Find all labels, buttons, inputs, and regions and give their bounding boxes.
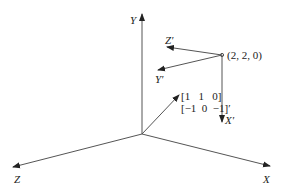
y-prime-label: Y′ xyxy=(155,73,164,85)
y-axis-label: Y xyxy=(130,14,138,26)
direction-vector xyxy=(142,95,179,134)
vector-line-1: [1 1 0] xyxy=(181,90,221,102)
x-prime-label: X′ xyxy=(224,114,235,126)
z-axis-label: Z xyxy=(14,173,21,185)
x-axis-label: X xyxy=(262,173,271,185)
x-axis xyxy=(142,134,270,166)
z-prime-axis xyxy=(167,47,222,55)
frame-origin-label: (2, 2, 0) xyxy=(227,49,262,62)
z-axis xyxy=(13,134,142,167)
vector-line-2: [−1 0 −1]′ xyxy=(181,102,231,114)
y-prime-axis xyxy=(158,55,222,70)
coordinate-frame-diagram: Y Z X Z′ Y′ X′ (2, 2, 0) [1 1 0] [−1 0 −… xyxy=(0,0,282,192)
z-prime-label: Z′ xyxy=(165,34,174,46)
